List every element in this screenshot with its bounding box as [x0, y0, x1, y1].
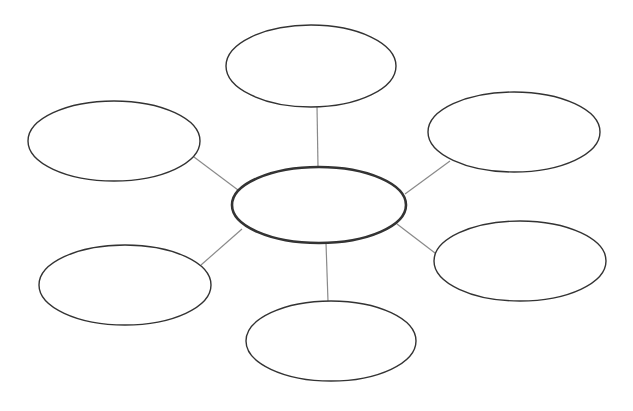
node-lower-right — [434, 221, 606, 301]
node-upper-left — [28, 101, 200, 181]
node-center — [232, 167, 406, 243]
node-upper-right — [428, 92, 600, 172]
bubble-map-diagram — [0, 0, 633, 411]
center-node — [232, 167, 406, 243]
node-top-shape — [226, 25, 396, 107]
node-bottom-shape — [246, 301, 416, 381]
node-lower-left-shape — [39, 245, 211, 325]
node-lower-right-shape — [434, 221, 606, 301]
connector-upper-left — [194, 157, 238, 190]
node-upper-left-shape — [28, 101, 200, 181]
connector-upper-right — [405, 161, 450, 194]
node-center-shape — [232, 167, 406, 243]
connector-lower-left — [201, 229, 242, 265]
connector-top — [317, 106, 318, 167]
node-top — [226, 25, 396, 107]
connector-lower-right — [397, 224, 435, 253]
node-lower-left — [39, 245, 211, 325]
node-upper-right-shape — [428, 92, 600, 172]
node-bottom — [246, 301, 416, 381]
connector-bottom — [326, 243, 328, 301]
